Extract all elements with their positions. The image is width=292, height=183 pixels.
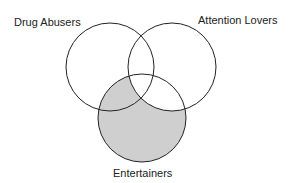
label-entertainers: Entertainers	[113, 167, 172, 179]
label-attention-lovers: Attention Lovers	[198, 14, 278, 26]
label-drug-abusers: Drug Abusers	[14, 16, 81, 28]
venn-diagram: Drug Abusers Attention Lovers Entertaine…	[0, 0, 292, 183]
